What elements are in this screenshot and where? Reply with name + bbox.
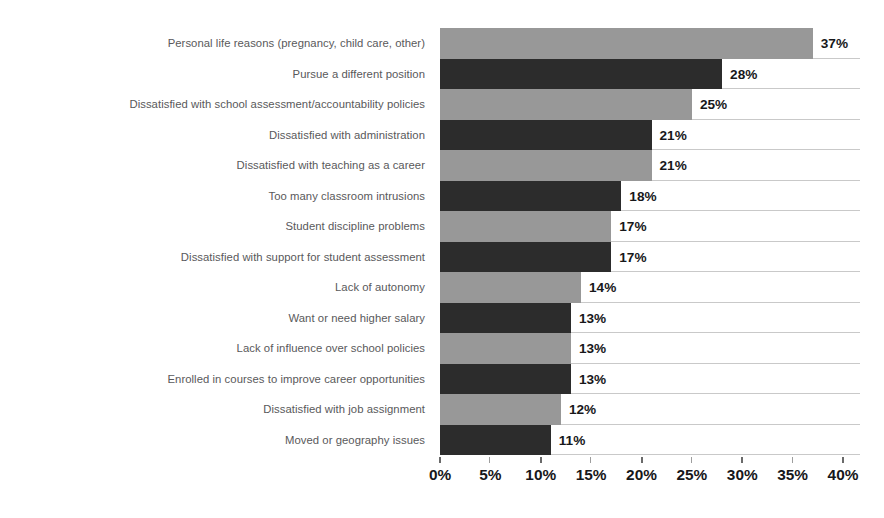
category-label: Dissatisfied with school assessment/acco…	[129, 89, 425, 120]
bar	[440, 272, 581, 303]
category-label: Dissatisfied with job assignment	[263, 394, 425, 425]
bar-value-label: 25%	[700, 89, 727, 120]
axis-tick	[792, 457, 793, 463]
bar	[440, 28, 813, 59]
bar-value-label: 17%	[619, 211, 646, 242]
bar-row: Dissatisfied with job assignment12%	[0, 394, 884, 425]
category-label: Pursue a different position	[293, 59, 425, 90]
axis-tick	[439, 457, 441, 463]
category-label: Dissatisfied with support for student as…	[181, 242, 425, 273]
axis-tick	[842, 457, 844, 463]
axis-tick	[489, 457, 490, 463]
category-label: Dissatisfied with administration	[269, 120, 425, 151]
bar	[440, 394, 561, 425]
bar-row: Moved or geography issues11%	[0, 425, 884, 456]
bar	[440, 242, 611, 273]
axis-tick-label: 20%	[626, 466, 657, 484]
bar	[440, 120, 652, 151]
bar-row: Student discipline problems17%	[0, 211, 884, 242]
category-label: Moved or geography issues	[285, 425, 425, 456]
bar	[440, 59, 722, 90]
bar-row: Personal life reasons (pregnancy, child …	[0, 28, 884, 59]
category-label: Want or need higher salary	[288, 303, 425, 334]
axis-tick	[641, 457, 643, 463]
chart-plot-area: Personal life reasons (pregnancy, child …	[0, 28, 884, 455]
category-label: Lack of influence over school policies	[237, 333, 425, 364]
bar-value-label: 13%	[579, 303, 606, 334]
bar-value-label: 37%	[821, 28, 848, 59]
bar-row: Enrolled in courses to improve career op…	[0, 364, 884, 395]
axis-tick	[691, 457, 692, 463]
bar-row: Lack of influence over school policies13…	[0, 333, 884, 364]
axis-tick-label: 40%	[828, 466, 859, 484]
bar-value-label: 21%	[660, 150, 687, 181]
axis-tick-label: 25%	[676, 466, 707, 484]
bar	[440, 425, 551, 456]
bar-value-label: 18%	[629, 181, 656, 212]
bar-row: Dissatisfied with support for student as…	[0, 242, 884, 273]
axis-tick-label: 30%	[727, 466, 758, 484]
bar-value-label: 17%	[619, 242, 646, 273]
bar-row: Want or need higher salary13%	[0, 303, 884, 334]
x-axis: 0%5%10%15%20%25%30%35%40%	[0, 455, 884, 500]
axis-tick-label: 15%	[576, 466, 607, 484]
category-label: Dissatisfied with teaching as a career	[237, 150, 425, 181]
bar	[440, 181, 621, 212]
axis-tick-label: 0%	[429, 466, 451, 484]
axis-tick-label: 35%	[777, 466, 808, 484]
bar-row: Lack of autonomy14%	[0, 272, 884, 303]
bar	[440, 211, 611, 242]
bar-value-label: 13%	[579, 333, 606, 364]
bar-value-label: 28%	[730, 59, 757, 90]
bar-row: Too many classroom intrusions18%	[0, 181, 884, 212]
axis-tick-label: 10%	[525, 466, 556, 484]
category-label: Too many classroom intrusions	[268, 181, 425, 212]
category-label: Student discipline problems	[286, 211, 426, 242]
category-label: Enrolled in courses to improve career op…	[168, 364, 426, 395]
axis-tick-label: 5%	[479, 466, 501, 484]
bar-row: Dissatisfied with school assessment/acco…	[0, 89, 884, 120]
category-label: Lack of autonomy	[335, 272, 425, 303]
axis-tick	[540, 457, 542, 463]
bar	[440, 333, 571, 364]
bar-row: Dissatisfied with teaching as a career21…	[0, 150, 884, 181]
bar	[440, 150, 652, 181]
bar	[440, 364, 571, 395]
axis-tick	[741, 457, 743, 463]
category-label: Personal life reasons (pregnancy, child …	[168, 28, 425, 59]
bar-value-label: 21%	[660, 120, 687, 151]
bar-row: Pursue a different position28%	[0, 59, 884, 90]
bar-value-label: 14%	[589, 272, 616, 303]
bar	[440, 303, 571, 334]
bar-value-label: 12%	[569, 394, 596, 425]
bar	[440, 89, 692, 120]
horizontal-bar-chart: Personal life reasons (pregnancy, child …	[0, 0, 884, 518]
axis-tick	[590, 457, 591, 463]
bar-value-label: 11%	[559, 425, 585, 456]
bar-row: Dissatisfied with administration21%	[0, 120, 884, 151]
bar-value-label: 13%	[579, 364, 606, 395]
